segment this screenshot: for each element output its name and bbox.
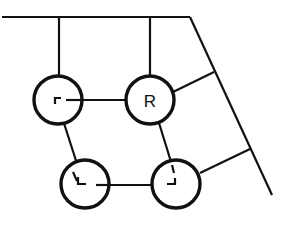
nodes: R xyxy=(34,76,200,208)
node-n3 xyxy=(61,160,109,208)
node-n4 xyxy=(152,160,200,208)
node-n1 xyxy=(34,76,82,124)
edge-n2-rail-slant xyxy=(173,72,214,92)
node-n2: R xyxy=(126,76,174,124)
rail-slant-line xyxy=(190,17,272,195)
diagram-canvas: R xyxy=(0,0,282,237)
edge-n2-n4 xyxy=(159,123,172,165)
edge-n4-rail-slant xyxy=(200,149,250,173)
node-label: R xyxy=(144,92,156,111)
